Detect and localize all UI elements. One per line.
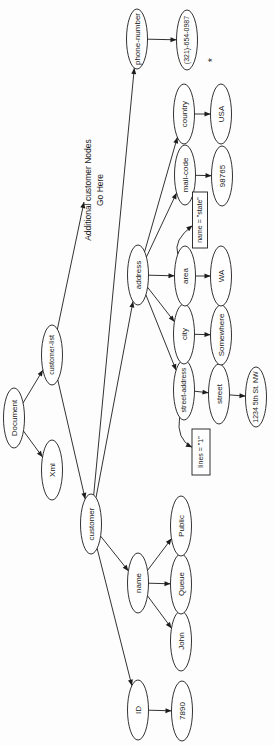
node-label-street: street: [215, 383, 224, 404]
node-id: ID: [128, 680, 149, 740]
node-phone-value: (321)-654-0987: [177, 10, 198, 70]
node-street-address: street-address: [174, 360, 195, 420]
node-first-name: John: [171, 611, 192, 671]
node-label-footnote-line1: *: [206, 57, 218, 62]
edge-address-mail-code: [146, 193, 176, 257]
node-label-xml: Xml: [48, 463, 57, 477]
edge-street-street-value: [230, 395, 246, 396]
edge-address-country: [145, 137, 178, 252]
node-phone-number: phone-number: [127, 9, 148, 69]
node-middle-name: Queue: [171, 554, 192, 614]
node-street-value: 1234 5th St. NW: [246, 367, 267, 427]
node-label-area: area: [181, 267, 190, 284]
node-xml: Xml: [42, 440, 63, 500]
edge-address-street-address: [146, 295, 176, 370]
node-id-value: 7890: [172, 681, 193, 741]
edge-customer-name: [101, 536, 129, 571]
node-label-id-value: 7890: [178, 702, 187, 720]
node-label-middle-name: Queue: [177, 571, 186, 596]
node-name: name: [128, 553, 149, 613]
node-lines-attr: lines = "1": [192, 429, 210, 475]
node-label-country: country: [180, 101, 189, 127]
node-customer-list: customer-list: [42, 325, 63, 385]
node-label-additional-note-line2: Go Here: [95, 174, 105, 206]
node-label-city-value: Somewhere: [217, 313, 226, 356]
edge-document-xml: [24, 431, 43, 457]
node-last-name: Public: [171, 496, 192, 556]
node-document: Document: [4, 388, 25, 448]
node-label-lines-attr: lines = "1": [197, 436, 204, 468]
edge-document-customer-list: [23, 370, 43, 403]
node-customer: customer: [81, 494, 102, 554]
edge-address-area: [149, 275, 175, 276]
node-label-phone-number: phone-number: [133, 13, 142, 65]
node-address: address: [128, 245, 149, 305]
node-label-mail-code: mail-code: [181, 157, 190, 192]
node-label-street-value: 1234 5th St. NW: [252, 371, 259, 423]
node-label-last-name: Public: [177, 515, 186, 537]
node-label-state-attr: name = "state": [196, 197, 203, 243]
edge-phone-number-phone-value: [148, 39, 177, 40]
node-city: city: [174, 304, 195, 364]
edge-name-middle-name: [149, 583, 171, 584]
node-footnote: *: [206, 57, 218, 62]
edge-customer-address: [96, 301, 133, 497]
node-label-mail-code-value: 98765: [218, 164, 227, 187]
edge-street-address-lines-attr: [179, 417, 192, 447]
edge-name-first-name: [148, 596, 172, 628]
node-area-value: WA: [211, 246, 232, 306]
node-label-customer: customer: [87, 507, 96, 540]
node-city-value: Somewhere: [211, 305, 232, 365]
node-label-country-value: USA: [217, 105, 226, 122]
node-area: area: [175, 246, 196, 306]
node-country-value: USA: [211, 84, 232, 144]
node-label-area-value: WA: [217, 269, 226, 282]
node-country: country: [174, 84, 195, 144]
node-label-document: Document: [10, 399, 19, 436]
node-label-city: city: [180, 328, 189, 340]
edge-address-city: [148, 287, 175, 321]
edge-name-last-name: [148, 539, 172, 571]
edge-id-id-value: [149, 710, 172, 711]
node-label-phone-value: (321)-654-0987: [183, 16, 191, 64]
edge-street-address-street: [195, 391, 209, 393]
node-additional-note: Additional customer NodesGo Here: [83, 139, 105, 241]
node-street: street: [209, 364, 230, 424]
node-label-street-address: street-address: [180, 367, 187, 412]
node-label-id: ID: [134, 706, 143, 714]
screenshot-root: DocumentXmlcustomer-listcustomerIDnamead…: [0, 0, 274, 745]
node-label-name: name: [134, 572, 143, 593]
node-label-customer-list: customer-list: [48, 335, 55, 375]
node-mail-code-value: 98765: [212, 146, 233, 206]
xml-tree-canvas: DocumentXmlcustomer-listcustomerIDnamead…: [0, 0, 274, 745]
xml-dom-tree-svg: DocumentXmlcustomer-listcustomerIDnamead…: [0, 0, 274, 745]
node-label-additional-note-line1: Additional customer Nodes: [83, 139, 93, 241]
node-state-attr: name = "state": [193, 192, 208, 248]
node-label-address: address: [134, 261, 143, 289]
edge-customer-list-additional-note: [57, 202, 84, 329]
node-label-first-name: John: [177, 632, 186, 649]
